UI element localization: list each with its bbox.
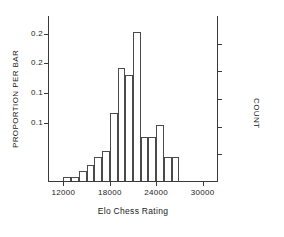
y-tick-mark [44, 93, 49, 94]
histogram-bar [164, 157, 172, 181]
x-tick-label: 18000 [98, 188, 122, 197]
histogram-bar [63, 177, 71, 181]
histogram-bar [79, 171, 87, 181]
y-axis-title: PROPORTION PER BAR [10, 16, 22, 182]
x-axis-title: Elo Chess Rating [48, 206, 218, 216]
y-tick-mark [44, 123, 49, 124]
histogram-bars [48, 16, 218, 182]
y-tick-label: 0.2 [31, 59, 43, 67]
x-tick-mark [110, 182, 111, 186]
y2-tick-mark [217, 99, 222, 100]
histogram-bar [94, 157, 102, 181]
x-tick-mark [203, 182, 204, 186]
y-tick-label: 0.1 [31, 89, 43, 97]
y2-tick-mark [217, 127, 222, 128]
x-tick-label: 12000 [52, 188, 76, 197]
histogram-figure: 0.20.20.10.1 12000180002400030000 PROPOR… [0, 0, 284, 237]
histogram-bar [141, 137, 149, 181]
y-tick-label: 0.1 [31, 119, 43, 127]
histogram-bar [172, 157, 180, 181]
histogram-bar [156, 125, 164, 181]
y-tick-label: 0.2 [31, 30, 43, 38]
y-tick-mark [44, 34, 49, 35]
x-tick-label: 24000 [144, 188, 168, 197]
y2-tick-mark [217, 154, 222, 155]
plot-area: 0.20.20.10.1 12000180002400030000 [48, 16, 218, 182]
histogram-bar [71, 177, 79, 181]
histogram-bar [87, 165, 95, 181]
y2-tick-mark [217, 44, 222, 45]
y2-tick-mark [217, 71, 222, 72]
histogram-bar [148, 137, 156, 181]
histogram-bar [118, 68, 126, 181]
y2-axis-title: COUNT [250, 98, 262, 158]
x-tick-mark [156, 182, 157, 186]
x-tick-mark [63, 182, 64, 186]
histogram-bar [133, 32, 141, 181]
y-tick-mark [44, 63, 49, 64]
histogram-bar [125, 75, 133, 181]
histogram-bar [110, 113, 118, 181]
x-tick-label: 30000 [191, 188, 215, 197]
histogram-bar [102, 151, 110, 181]
